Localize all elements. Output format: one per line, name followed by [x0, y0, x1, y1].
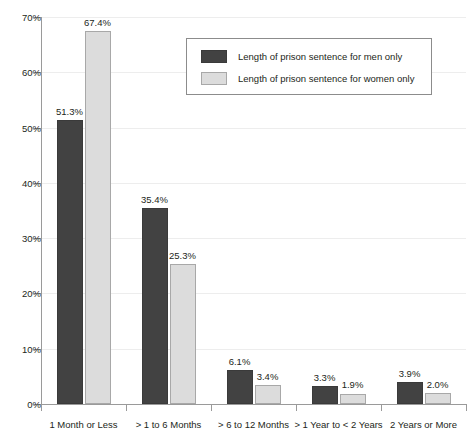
x-axis-tick-mark — [211, 404, 212, 411]
y-axis-tick-label: 50% — [11, 122, 41, 133]
y-axis-tick-label: 10% — [11, 343, 41, 354]
bar-value-label: 1.9% — [342, 379, 364, 390]
y-axis-tick-label: 30% — [11, 233, 41, 244]
bar-value-label: 35.4% — [141, 194, 168, 205]
bar-value-label: 67.4% — [84, 17, 111, 28]
x-axis-category-label: > 1 to 6 Months — [136, 419, 202, 430]
bar-value-label: 3.9% — [399, 368, 421, 379]
bar-value-label: 6.1% — [229, 356, 251, 367]
bar-women — [340, 394, 366, 405]
legend-label-women: Length of prison sentence for women only — [238, 73, 414, 84]
y-axis-tick-label: 0% — [11, 399, 41, 410]
x-axis-tick-mark — [381, 404, 382, 411]
legend-item-women: Length of prison sentence for women only — [201, 69, 431, 88]
legend-swatch-women-icon — [201, 72, 227, 85]
bar-chart: 0%10%20%30%40%50%60%70% 51.3%67.4%35.4%2… — [0, 0, 472, 445]
legend-item-men: Length of prison sentence for men only — [201, 47, 431, 66]
legend-label-men: Length of prison sentence for men only — [238, 51, 402, 62]
bar-women — [85, 31, 111, 404]
bar-value-label: 25.3% — [169, 250, 196, 261]
chart-legend: Length of prison sentence for men only L… — [186, 38, 432, 95]
x-axis-tick-mark — [126, 404, 127, 411]
bar-value-label: 3.3% — [314, 372, 336, 383]
bar-men — [397, 382, 423, 404]
bar-women — [170, 264, 196, 404]
bar-value-label: 3.4% — [257, 371, 279, 382]
y-axis-tick-label: 40% — [11, 177, 41, 188]
bar-women — [255, 385, 281, 404]
bar-women — [425, 393, 451, 404]
bar-value-label: 2.0% — [427, 379, 449, 390]
x-axis-tick-mark — [296, 404, 297, 411]
x-axis-tick-mark — [41, 404, 42, 411]
x-axis-category-label: 2 Years or More — [390, 419, 457, 430]
bar-men — [312, 386, 338, 404]
bar-men — [227, 370, 253, 404]
x-axis-category-label: > 1 Year to < 2 Years — [294, 419, 382, 430]
x-axis-tick-mark — [466, 404, 467, 411]
x-axis-category-label: 1 Month or Less — [49, 419, 117, 430]
y-axis-tick-label: 60% — [11, 67, 41, 78]
legend-swatch-men-icon — [201, 50, 227, 63]
bar-men — [142, 208, 168, 404]
x-axis-line — [41, 404, 466, 405]
y-axis-tick-label: 20% — [11, 288, 41, 299]
y-axis-tick-label: 70% — [11, 12, 41, 23]
x-axis-category-label: > 6 to 12 Months — [218, 419, 289, 430]
bar-men — [57, 120, 83, 404]
bar-value-label: 51.3% — [56, 106, 83, 117]
